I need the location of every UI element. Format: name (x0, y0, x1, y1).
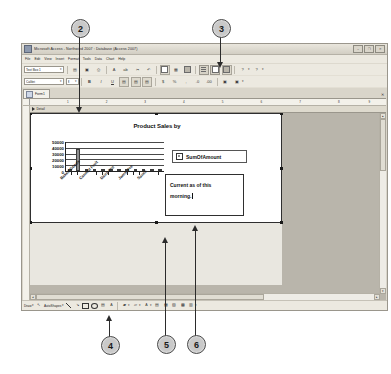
comma-button[interactable]: , (181, 77, 191, 87)
align-left-button[interactable]: ▤ (119, 77, 129, 87)
toolbox-button[interactable] (183, 65, 193, 75)
fill-color-button[interactable]: ▣ (220, 77, 230, 87)
chevron-down-icon[interactable]: ▾ (62, 304, 64, 307)
menu-item-tools[interactable]: Tools (83, 57, 91, 61)
selection-handle[interactable] (280, 113, 283, 115)
align-center-button[interactable]: ▤ (131, 77, 141, 87)
font-color-icon[interactable]: A (143, 302, 150, 309)
shadow-style-icon[interactable]: ▩ (179, 302, 186, 309)
align-right-button[interactable]: ▤ (142, 77, 152, 87)
menu-item-data[interactable]: Data (95, 57, 102, 61)
office-assistant-button[interactable]: ? (252, 65, 262, 75)
horizontal-scroll-track[interactable] (264, 294, 374, 300)
text-box-icon[interactable]: ▤ (99, 302, 106, 309)
chevron-down-icon[interactable]: ▾ (150, 304, 152, 307)
horizontal-scroll-thumb[interactable] (36, 294, 264, 300)
currency-button[interactable]: $ (158, 77, 168, 87)
properties-button[interactable] (160, 65, 170, 75)
scroll-down-button[interactable]: ▾ (380, 288, 386, 294)
chart-bar[interactable] (134, 169, 138, 171)
line-icon[interactable] (65, 302, 72, 309)
tab-form1[interactable]: Form1 (23, 89, 50, 98)
menu-item-help[interactable]: Help (118, 57, 125, 61)
selection-handle[interactable] (155, 113, 158, 115)
select-objects-icon[interactable]: ↖ (35, 302, 42, 309)
detail-section-bar[interactable]: Detail (30, 106, 386, 113)
italic-button[interactable]: I (96, 77, 106, 87)
menu-item-file[interactable]: File (25, 57, 30, 61)
vertical-scroll-thumb[interactable] (380, 119, 386, 171)
font-color-button[interactable]: A (109, 65, 119, 75)
selection-handle[interactable] (30, 113, 32, 115)
chart-control-container[interactable]: Product Sales by 50000 40000 30000 20000… (30, 113, 282, 223)
font-name-combo[interactable]: Calibri ▾ (24, 78, 64, 85)
decrease-decimal-button[interactable]: .00 (204, 77, 214, 87)
underline-button[interactable]: U (108, 77, 118, 87)
object-select-combo[interactable]: Text Box 1 ▾ (24, 66, 64, 73)
vertical-scrollbar[interactable]: ▴ ▾ (379, 113, 386, 294)
close-document-button[interactable]: ✕ (381, 93, 384, 97)
percent-button[interactable]: % (170, 77, 180, 87)
horizontal-scrollbar[interactable]: ◂ ▸ (30, 293, 380, 300)
spelling-button[interactable]: ab (121, 65, 131, 75)
chevron-down-icon[interactable]: ▾ (248, 68, 250, 71)
new-object-button[interactable] (222, 65, 232, 75)
bold-button[interactable]: B (85, 77, 95, 87)
line-color-button[interactable]: ▣ (232, 77, 242, 87)
toolbar-overflow-icon[interactable]: ▾ (242, 80, 244, 83)
chart-bar[interactable] (158, 169, 162, 171)
y-tick-50000: 50000 (52, 140, 64, 145)
menu-item-view[interactable]: View (44, 57, 51, 61)
toolbar-overflow-icon[interactable]: ▾ (262, 68, 264, 71)
fill-color-icon[interactable]: ▰ (121, 302, 128, 309)
menu-item-format[interactable]: Format (68, 57, 79, 61)
vertical-scroll-track[interactable] (380, 171, 386, 288)
word-art-icon[interactable]: A (108, 302, 115, 309)
build-button[interactable]: ? (238, 65, 248, 75)
y-tick-40000: 40000 (52, 146, 64, 151)
restore-button[interactable]: ❐ (364, 45, 374, 53)
undo-button[interactable]: ↶ (144, 65, 154, 75)
selection-handle[interactable] (30, 167, 32, 170)
selection-handle[interactable] (155, 221, 158, 224)
menu-item-insert[interactable]: Insert (56, 57, 64, 61)
textbox-control[interactable]: Current as of this morning. (165, 174, 244, 216)
print-button[interactable]: ⎙ (93, 65, 103, 75)
autoshapes-menu[interactable]: AutoShapes (44, 304, 61, 308)
3d-style-icon[interactable]: ▥ (188, 302, 195, 309)
selection-handle[interactable] (30, 221, 32, 224)
legend-swatch-icon (176, 153, 183, 160)
scroll-right-button[interactable]: ▸ (374, 294, 380, 300)
menu-item-edit[interactable]: Edit (34, 57, 40, 61)
chart-gridline (66, 148, 164, 149)
arrow-icon[interactable]: ↘ (74, 302, 81, 309)
vertical-ruler (23, 106, 30, 300)
save-button[interactable]: ▣ (82, 65, 92, 75)
selection-handle[interactable] (280, 167, 283, 170)
chevron-down-icon[interactable]: ▾ (139, 304, 141, 307)
selection-handle[interactable] (280, 221, 283, 224)
chevron-down-icon: ▾ (75, 80, 77, 83)
chart-bar[interactable] (150, 169, 154, 171)
chevron-down-icon[interactable]: ▾ (32, 304, 34, 307)
line-style-icon[interactable]: ▤ (154, 302, 161, 309)
field-list-button[interactable] (199, 65, 209, 75)
font-size-combo[interactable]: 8 ▾ (66, 78, 79, 85)
chart-bar[interactable] (117, 169, 121, 171)
oval-icon[interactable] (91, 302, 98, 309)
form-design-surface[interactable]: Product Sales by 50000 40000 30000 20000… (30, 113, 386, 300)
rectangle-icon[interactable] (82, 302, 89, 309)
minimize-button[interactable]: – (353, 45, 363, 53)
toolbar-separator (155, 78, 156, 86)
draw-menu[interactable]: Draw (24, 304, 31, 308)
cut-button[interactable]: ✂ (132, 65, 142, 75)
chart-bar[interactable] (93, 169, 97, 171)
chart-legend[interactable]: SumOfAmount (172, 150, 247, 163)
line-color-icon[interactable]: ▱ (132, 302, 139, 309)
arrow-style-icon[interactable]: ▨ (171, 302, 178, 309)
increase-decimal-button[interactable]: .0 (193, 77, 203, 87)
menu-item-chart[interactable]: Chart (106, 57, 114, 61)
code-button[interactable]: ▦ (171, 65, 181, 75)
chevron-down-icon[interactable]: ▾ (128, 304, 130, 307)
close-button[interactable]: ✕ (375, 45, 385, 53)
